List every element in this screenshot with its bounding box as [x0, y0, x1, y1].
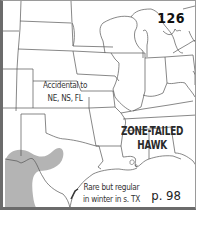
winter-note-line2: in winter in s. TX: [83, 194, 140, 204]
species-name-line2: HAWK: [121, 139, 183, 151]
range-map-frame: 126 Accidental to NE, NS, FL ZONE-TAILED…: [0, 0, 196, 210]
winter-note: Rare but regular in winter in s. TX: [83, 182, 140, 205]
range-area: [5, 148, 63, 209]
winter-note-line1: Rare but regular: [83, 182, 140, 192]
range-map: [3, 1, 196, 210]
accidental-note-line1: Accidental to: [43, 80, 87, 90]
accidental-note-line2: NE, NS, FL: [43, 93, 87, 103]
plate-number: 126: [157, 11, 185, 25]
accidental-note: Accidental to NE, NS, FL: [43, 80, 87, 105]
species-name: ZONE-TAILED HAWK: [121, 125, 183, 153]
page-reference: p. 98: [151, 189, 181, 202]
species-name-line1: ZONE-TAILED: [121, 125, 183, 137]
